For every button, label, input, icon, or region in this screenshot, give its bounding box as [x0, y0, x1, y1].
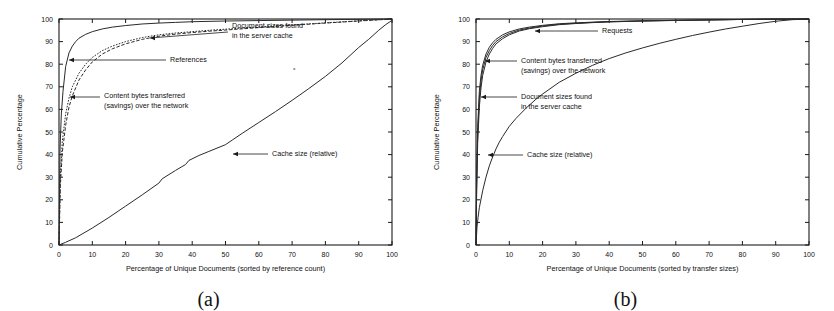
annotation-arrowhead: [150, 36, 155, 41]
annotation-arrowhead: [233, 152, 238, 157]
y-tick-label: 70: [45, 83, 53, 90]
curve-annotation: Content bytes transferred(savings) over …: [485, 56, 606, 75]
y-tick-label: 80: [45, 61, 53, 68]
y-tick-label: 70: [462, 83, 470, 90]
y-tick-label: 40: [462, 151, 470, 158]
x-tick-label: 20: [539, 251, 547, 258]
annotation-label: Content bytes transferred: [104, 91, 185, 100]
x-tick-label: 0: [474, 251, 478, 258]
x-tick-label: 0: [57, 251, 61, 258]
panel-a-plot: 0102030405060708090100010203040506070809…: [0, 0, 417, 285]
annotation-label: Cache size (relative): [272, 149, 338, 158]
annotation-label: (savings) over the network: [521, 66, 606, 75]
curve-annotation: Document sizes foundin the server cache: [150, 21, 303, 40]
y-tick-label: 50: [462, 129, 470, 136]
annotation-arrowhead: [488, 153, 493, 158]
annotation-arrowhead: [481, 95, 486, 100]
y-tick-label: 90: [45, 38, 53, 45]
y-tick-label: 40: [45, 151, 53, 158]
x-tick-label: 80: [739, 251, 747, 258]
annotation-arrowhead: [535, 29, 540, 34]
y-tick-label: 60: [462, 106, 470, 113]
y-tick-label: 0: [466, 242, 470, 249]
figure-two-panel-cdf: 0102030405060708090100010203040506070809…: [0, 0, 834, 311]
annotation-label: Document sizes found: [521, 92, 592, 101]
annotation-label: in the server cache: [232, 31, 293, 40]
y-tick-label: 90: [462, 38, 470, 45]
x-tick-label: 30: [572, 251, 580, 258]
y-tick-label: 100: [458, 16, 470, 23]
y-tick-label: 30: [45, 174, 53, 181]
series-curve: [59, 19, 392, 245]
x-tick-label: 60: [255, 251, 263, 258]
y-tick-label: 0: [49, 242, 53, 249]
y-tick-label: 20: [45, 196, 53, 203]
x-tick-label: 40: [188, 251, 196, 258]
curve-annotation: Content bytes transferred(savings) over …: [70, 91, 189, 110]
annotation-label: Requests: [602, 26, 633, 35]
plot-frame: [476, 19, 809, 245]
scan-speck: •: [293, 64, 296, 73]
x-tick-label: 20: [122, 251, 130, 258]
curve-annotation: Requests: [535, 26, 633, 35]
series-curve: [59, 19, 392, 245]
x-tick-label: 40: [605, 251, 613, 258]
y-tick-label: 10: [462, 219, 470, 226]
curve-annotation: Document sizes foundin the server cache: [481, 92, 592, 111]
annotation-label: (savings) over the network: [104, 101, 189, 110]
panel-a-caption: (a): [0, 288, 417, 311]
x-tick-label: 50: [222, 251, 230, 258]
x-tick-label: 90: [772, 251, 780, 258]
x-tick-label: 50: [639, 251, 647, 258]
curve-annotation: Cache size (relative): [488, 150, 593, 159]
y-tick-label: 20: [462, 196, 470, 203]
plot-frame: [59, 19, 392, 245]
y-tick-label: 30: [462, 174, 470, 181]
series-curve: [476, 19, 809, 245]
panel-b: 0102030405060708090100010203040506070809…: [417, 0, 834, 311]
x-axis-title: Percentage of Unique Documents (sorted b…: [547, 264, 739, 273]
series-curve: [476, 19, 809, 245]
curve-annotation: Cache size (relative): [233, 149, 338, 158]
x-tick-label: 60: [672, 251, 680, 258]
x-tick-label: 80: [322, 251, 330, 258]
panel-b-plot: 0102030405060708090100010203040506070809…: [417, 0, 834, 285]
panel-b-caption: (b): [417, 288, 834, 311]
y-tick-label: 60: [45, 106, 53, 113]
x-tick-label: 30: [155, 251, 163, 258]
series-curve: [59, 19, 392, 245]
x-tick-label: 70: [705, 251, 713, 258]
series-curve: [59, 20, 392, 245]
y-tick-label: 10: [45, 219, 53, 226]
curve-annotation: References: [69, 55, 207, 64]
annotation-arrowhead: [69, 58, 74, 63]
x-axis-title: Percentage of Unique Documents (sorted b…: [126, 264, 325, 273]
y-tick-label: 50: [45, 129, 53, 136]
annotation-label: Document sizes found: [232, 21, 303, 30]
y-axis-title: Cumulative Percentage: [432, 94, 441, 170]
series-curve: [476, 19, 809, 245]
x-tick-label: 100: [386, 251, 398, 258]
x-tick-label: 90: [355, 251, 363, 258]
annotation-label: Content bytes transferred: [521, 56, 602, 65]
x-tick-label: 10: [88, 251, 96, 258]
annotation-label: in the server cache: [521, 102, 582, 111]
x-tick-label: 10: [505, 251, 513, 258]
annotation-label: Cache size (relative): [527, 150, 593, 159]
annotation-arrowhead: [70, 95, 75, 100]
series-curve: [476, 19, 809, 245]
x-tick-label: 100: [803, 251, 815, 258]
annotation-label: References: [170, 55, 207, 64]
x-tick-label: 70: [288, 251, 296, 258]
y-axis-title: Cumulative Percentage: [15, 94, 24, 170]
y-tick-label: 80: [462, 61, 470, 68]
y-tick-label: 100: [41, 16, 53, 23]
panel-a: 0102030405060708090100010203040506070809…: [0, 0, 417, 311]
